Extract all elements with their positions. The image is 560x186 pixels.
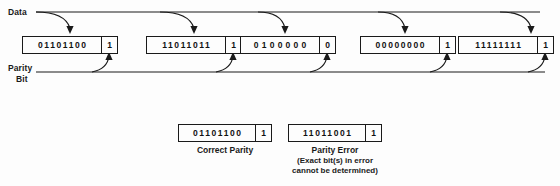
byte-parity-field: 1 [101, 37, 117, 53]
parity-branch-3 [310, 56, 327, 72]
parity-branch-1 [92, 56, 109, 72]
byte-data-field: 00000000 [361, 37, 439, 53]
byte-data-field: 11111111 [459, 37, 537, 53]
byte-frame-3: 0100000 0 [240, 36, 336, 54]
example-parity-bit: 1 [371, 129, 376, 138]
byte-parity-bit: 1 [107, 41, 112, 50]
data-label: Data [8, 7, 27, 17]
byte-frame-2: 11011011 1 [146, 36, 242, 54]
example-byte-frame: 01101100 1 [178, 124, 272, 142]
byte-data-bits: 00000000 [374, 41, 426, 50]
example-data-field: 11011001 [289, 125, 365, 141]
example-caption-line1: Parity Error [288, 145, 382, 156]
byte-parity-field: 1 [537, 37, 553, 53]
byte-parity-field: 1 [225, 37, 241, 53]
example-caption: Correct Parity [178, 145, 272, 156]
connector-lines-layer [0, 0, 560, 186]
data-branch-3 [258, 12, 285, 28]
byte-frame-1: 01101100 1 [22, 36, 118, 54]
byte-data-bits: 11111111 [474, 41, 523, 50]
parity-branch-2 [216, 56, 233, 72]
example-parity-field: 1 [255, 125, 271, 141]
byte-parity-bit: 0 [325, 41, 330, 50]
data-arrowhead-1 [66, 26, 73, 34]
parity-bit-diagram: Data Parity Bit 01101100 1 11011011 1 01… [0, 0, 560, 186]
byte-parity-field: 1 [439, 37, 455, 53]
data-branch-1 [36, 12, 70, 28]
data-arrowhead-2 [190, 26, 197, 34]
data-arrowhead-3 [281, 26, 288, 34]
parity-branch-4 [430, 56, 447, 72]
byte-parity-bit: 1 [445, 41, 450, 50]
data-branch-4 [378, 12, 405, 28]
example-data-bits: 11011001 [301, 129, 352, 138]
example-correct-parity: 01101100 1 Correct Parity [178, 124, 272, 156]
example-caption-line1: Correct Parity [178, 145, 272, 156]
byte-frame-4: 00000000 1 [360, 36, 456, 54]
example-data-bits: 01101100 [191, 129, 242, 138]
byte-parity-bit: 1 [543, 41, 548, 50]
byte-data-bits: 01101100 [36, 41, 87, 50]
example-byte-frame: 11011001 1 [288, 124, 382, 142]
example-caption: Parity Error (Exact bit(s) in error cann… [288, 145, 382, 177]
byte-parity-bit: 1 [231, 41, 236, 50]
byte-data-field: 01101100 [23, 37, 101, 53]
example-caption-line2: (Exact bit(s) in error [288, 156, 382, 167]
parity-bit-label-line2: Bit [16, 74, 28, 84]
byte-data-field: 11011011 [147, 37, 225, 53]
data-branch-2 [160, 12, 194, 28]
byte-parity-field: 0 [319, 37, 335, 53]
example-caption-line3: cannot be determined) [288, 166, 382, 177]
example-parity-field: 1 [365, 125, 381, 141]
parity-branch-5 [528, 56, 545, 72]
example-parity-error: 11011001 1 Parity Error (Exact bit(s) in… [288, 124, 382, 177]
example-parity-bit: 1 [261, 129, 266, 138]
byte-data-field: 0100000 [241, 37, 319, 53]
data-arrowhead-4 [401, 26, 408, 34]
data-arrowhead-5 [527, 26, 534, 34]
parity-bit-label-line1: Parity [8, 63, 32, 73]
byte-frame-5: 11111111 1 [458, 36, 554, 54]
data-branch-5 [500, 12, 531, 28]
byte-data-bits: 0100000 [251, 41, 310, 50]
example-data-field: 01101100 [179, 125, 255, 141]
byte-data-bits: 11011011 [161, 41, 212, 50]
